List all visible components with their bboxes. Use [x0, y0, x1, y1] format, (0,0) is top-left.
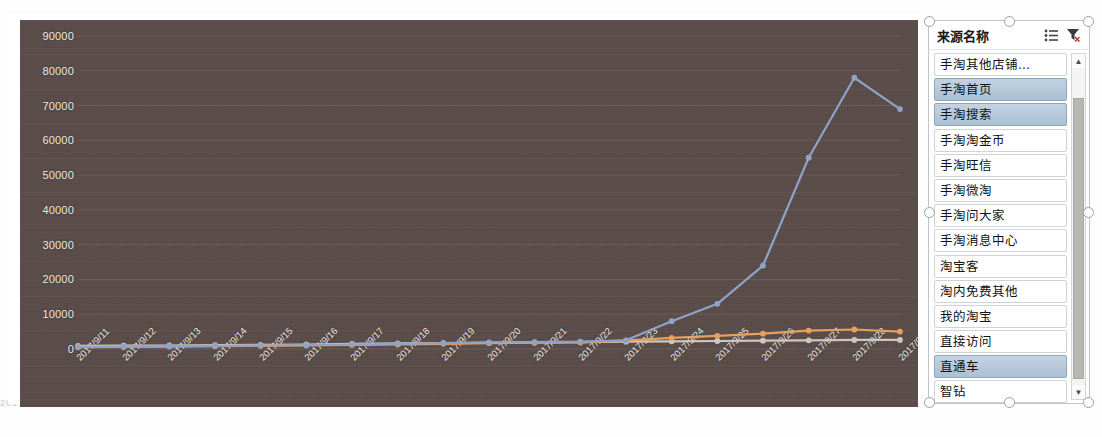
- series-data-point: [440, 340, 446, 346]
- scrollbar-thumb[interactable]: [1073, 98, 1084, 379]
- slicer-item[interactable]: 手淘淘金币: [934, 129, 1067, 152]
- series-data-point: [760, 331, 766, 337]
- chart-container[interactable]: 0100002000030000400005000060000700008000…: [8, 14, 923, 404]
- slicer-item[interactable]: 智钻: [934, 380, 1067, 403]
- series-data-point: [121, 344, 127, 350]
- slicer-panel[interactable]: 来源名称 手淘其他店铺...手淘首页手淘搜索手淘淘金币手淘旺信手淘微淘手淘问大家…: [928, 20, 1090, 404]
- clear-filter-icon[interactable]: [1063, 26, 1083, 44]
- scroll-up-button[interactable]: ▲: [1072, 54, 1085, 68]
- series-data-point: [897, 106, 903, 112]
- slicer-item[interactable]: 淘内免费其他: [934, 280, 1067, 303]
- series-data-point: [851, 337, 857, 343]
- series-data-point: [760, 338, 766, 344]
- series-data-point: [760, 263, 766, 269]
- series-data-point: [714, 333, 720, 339]
- slicer-item[interactable]: 手淘首页: [934, 78, 1067, 101]
- slicer-item[interactable]: 手淘旺信: [934, 154, 1067, 177]
- scroll-down-button[interactable]: ▼: [1072, 385, 1085, 399]
- series-data-point: [897, 337, 903, 343]
- series-data-point: [166, 343, 172, 349]
- slicer-item-list[interactable]: 手淘其他店铺...手淘首页手淘搜索手淘淘金币手淘旺信手淘微淘手淘问大家手淘消息中…: [934, 53, 1067, 406]
- slicer-item[interactable]: 我的淘宝: [934, 305, 1067, 328]
- series-data-point: [669, 335, 675, 341]
- series-data-point: [669, 318, 675, 324]
- multiselect-icon[interactable]: [1041, 26, 1061, 44]
- series-data-point: [714, 301, 720, 307]
- resize-handle-ne[interactable]: [1083, 16, 1094, 27]
- slicer-title: 来源名称: [937, 26, 1039, 45]
- series-data-point: [851, 327, 857, 333]
- slicer-scrollbar[interactable]: ▲ ▼: [1071, 53, 1086, 400]
- resize-handle-nw[interactable]: [924, 16, 935, 27]
- resize-handle-n[interactable]: [1004, 16, 1015, 27]
- series-data-point: [486, 339, 492, 345]
- series-data-point: [806, 337, 812, 343]
- slicer-body: 手淘其他店铺...手淘首页手淘搜索手淘淘金币手淘旺信手淘微淘手淘问大家手淘消息中…: [929, 50, 1089, 403]
- series-lines: [20, 20, 918, 407]
- series-data-point: [623, 337, 629, 343]
- slicer-item[interactable]: 手淘搜索: [934, 103, 1067, 126]
- slicer-item[interactable]: 直通车: [934, 355, 1067, 378]
- slicer-item[interactable]: 手淘其他店铺...: [934, 53, 1067, 76]
- resize-handle-e[interactable]: [1083, 207, 1094, 218]
- series-data-point: [303, 342, 309, 348]
- series-data-point: [212, 343, 218, 349]
- series-data-point: [806, 328, 812, 334]
- slicer-item[interactable]: 直接访问: [934, 330, 1067, 353]
- slicer-item[interactable]: 手淘微淘: [934, 179, 1067, 202]
- slicer-item[interactable]: 手淘消息中心: [934, 229, 1067, 252]
- resize-handle-s[interactable]: [1004, 397, 1015, 408]
- resize-handle-w[interactable]: [924, 207, 935, 218]
- resize-handle-sw[interactable]: [924, 397, 935, 408]
- series-data-point: [258, 343, 264, 349]
- slicer-item[interactable]: 手淘问大家: [934, 204, 1067, 227]
- screenshot-root: 2017/9/30 70701 7600 4416 81790 18494 50…: [0, 0, 1102, 437]
- slicer-item[interactable]: 淘宝客: [934, 255, 1067, 278]
- series-data-point: [714, 338, 720, 344]
- series-line: [78, 78, 900, 347]
- series-data-point: [532, 339, 538, 345]
- series-data-point: [395, 341, 401, 347]
- series-data-point: [349, 342, 355, 348]
- series-data-point: [851, 75, 857, 81]
- series-data-point: [806, 155, 812, 161]
- series-data-point: [897, 329, 903, 335]
- series-data-point: [577, 339, 583, 345]
- series-data-point: [75, 344, 81, 350]
- resize-handle-se[interactable]: [1083, 397, 1094, 408]
- chart-plot-area: 0100002000030000400005000060000700008000…: [20, 20, 918, 407]
